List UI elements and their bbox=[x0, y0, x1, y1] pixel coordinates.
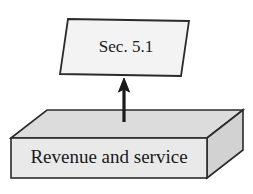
node-sec-5-1[interactable]: Sec. 5.1 bbox=[60, 19, 189, 76]
node-sec-label: Sec. 5.1 bbox=[99, 37, 153, 56]
node-revenue-label: Revenue and service bbox=[30, 146, 187, 167]
cuboid-top-face bbox=[11, 110, 243, 138]
node-revenue-and-service[interactable]: Revenue and service bbox=[11, 110, 243, 178]
flow-diagram: Revenue and service Sec. 5.1 bbox=[0, 0, 253, 194]
diagram-canvas: Revenue and service Sec. 5.1 bbox=[0, 0, 253, 194]
